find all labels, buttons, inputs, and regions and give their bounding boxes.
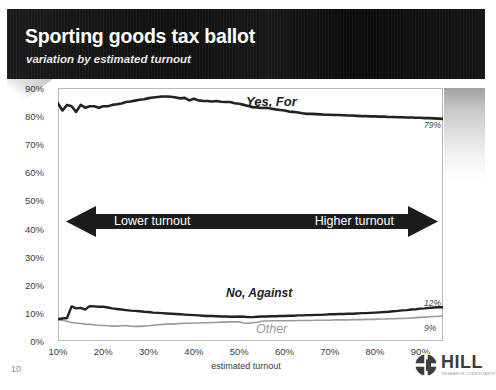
arrow-left-label: Lower turnout (114, 214, 190, 228)
hill-circle-icon (414, 353, 438, 377)
x-tick-label: 40% (184, 346, 203, 357)
end-value-other: 9% (424, 323, 436, 333)
y-tick-label: 30% (0, 251, 44, 262)
x-tick-label: 10% (48, 346, 67, 357)
logo-wordmark: HILL (441, 353, 483, 372)
y-tick-label: 80% (0, 111, 44, 122)
turnout-direction-annotation: Lower turnout Higher turnout (66, 205, 438, 238)
page-subtitle: variation by estimated turnout (26, 53, 191, 65)
y-tick-label: 90% (0, 83, 44, 94)
y-tick-label: 70% (0, 139, 44, 150)
chart: 0%10%20%30%40%50%60%70%80%90% 10%20%30%4… (0, 80, 492, 370)
series-label-yes: Yes, For (246, 94, 297, 109)
y-tick-label: 40% (0, 223, 44, 234)
right-gradient-decoration (444, 88, 485, 180)
hill-logo: HILL RESEARCH CONSULTANTS (414, 352, 488, 382)
logo-tagline: RESEARCH CONSULTANTS (442, 372, 496, 376)
x-tick-label: 80% (366, 346, 385, 357)
y-tick-label: 20% (0, 279, 44, 290)
page-title: Sporting goods tax ballot (25, 25, 255, 48)
x-tick-label: 70% (320, 346, 339, 357)
arrow-right-label: Higher turnout (315, 214, 394, 228)
x-tick-label: 60% (275, 346, 294, 357)
y-tick-label: 50% (0, 195, 44, 206)
end-value-no: 12% (424, 298, 441, 308)
series-label-other: Other (256, 322, 287, 336)
y-tick-label: 0% (0, 336, 44, 347)
x-tick-label: 50% (230, 346, 249, 357)
y-tick-label: 60% (0, 167, 44, 178)
x-tick-label: 20% (94, 346, 113, 357)
page-number: 10 (11, 364, 21, 374)
end-value-yes: 79% (424, 120, 441, 130)
y-tick-label: 10% (0, 307, 44, 318)
x-tick-label: 30% (139, 346, 158, 357)
series-line-no-against (58, 306, 443, 319)
slide-header: Sporting goods tax ballot variation by e… (7, 9, 485, 79)
series-label-no: No, Against (226, 286, 292, 300)
